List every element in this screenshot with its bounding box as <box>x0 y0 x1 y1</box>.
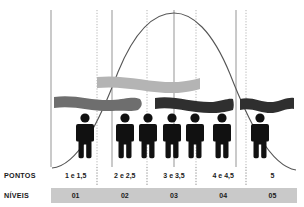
person-figure <box>76 113 94 158</box>
niveis-cell-05: 05 <box>248 192 297 199</box>
pontos-row: 1 e 1,5 2 e 2,5 3 e 3,5 4 e 4,5 5 <box>51 169 297 182</box>
row-label-niveis: NÍVEIS <box>4 191 29 200</box>
distribution-chart: PONTOS 1 e 1,5 2 e 2,5 3 e 3,5 4 e 4,5 5… <box>0 0 304 207</box>
people-figures <box>76 113 269 158</box>
pontos-cell-05: 5 <box>248 172 297 179</box>
person-figure <box>251 113 269 158</box>
person-figure <box>163 113 181 158</box>
pontos-cell-01: 1 e 1,5 <box>51 172 100 179</box>
person-figure <box>213 113 231 158</box>
band-dark-right <box>240 98 294 113</box>
person-figure <box>116 113 134 158</box>
niveis-cell-01: 01 <box>51 192 100 199</box>
band-medium <box>54 96 142 111</box>
niveis-cell-03: 03 <box>149 192 198 199</box>
row-label-pontos: PONTOS <box>4 171 36 180</box>
niveis-cell-04: 04 <box>199 192 248 199</box>
band-dark <box>155 97 234 113</box>
pontos-cell-04: 4 e 4,5 <box>199 172 248 179</box>
niveis-cell-02: 02 <box>100 192 149 199</box>
niveis-row: 01 02 03 04 05 <box>51 188 297 203</box>
person-figure <box>186 113 204 158</box>
pontos-cell-02: 2 e 2,5 <box>100 172 149 179</box>
pontos-cell-03: 3 e 3,5 <box>149 172 198 179</box>
person-figure <box>139 113 157 158</box>
